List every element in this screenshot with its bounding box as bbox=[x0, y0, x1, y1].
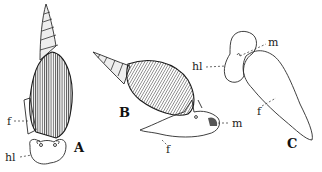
panel-c-head-lobe bbox=[224, 31, 256, 82]
panel-c-leader-m bbox=[240, 44, 266, 56]
panel-a-eye-right bbox=[54, 144, 57, 147]
panel-a-body-whorl bbox=[30, 52, 73, 138]
panel-b-label-m: m bbox=[232, 117, 243, 130]
panel-a-head bbox=[30, 139, 66, 164]
panel-c-label-hl: hl bbox=[192, 60, 203, 73]
panel-b-mouth bbox=[208, 117, 217, 126]
panel-c-label-f: f bbox=[257, 105, 262, 118]
snail-figure: f hl A B f m hl m f C bbox=[0, 0, 322, 172]
panel-c-caption: C bbox=[287, 136, 297, 151]
panel-b: B f m bbox=[93, 52, 243, 156]
panel-b-caption: B bbox=[119, 105, 130, 120]
panel-c-mouth bbox=[237, 54, 240, 56]
panel-a-eye-left bbox=[40, 144, 43, 147]
panel-c-leader-hl bbox=[206, 66, 226, 67]
panel-a-caption: A bbox=[73, 140, 85, 155]
panel-a: f hl A bbox=[5, 4, 85, 164]
panel-b-body-whorl bbox=[127, 61, 194, 116]
panel-a-label-hl: hl bbox=[5, 151, 16, 164]
panel-a-label-f: f bbox=[7, 115, 12, 128]
panel-b-tentacle bbox=[198, 100, 202, 108]
panel-b-label-f: f bbox=[166, 143, 171, 156]
panel-a-tentacle-right bbox=[56, 141, 59, 144]
panel-a-leader-hl bbox=[20, 155, 32, 157]
panel-c-label-m: m bbox=[268, 36, 279, 49]
panel-b-eye bbox=[195, 116, 198, 119]
panel-c-foot bbox=[243, 51, 312, 140]
